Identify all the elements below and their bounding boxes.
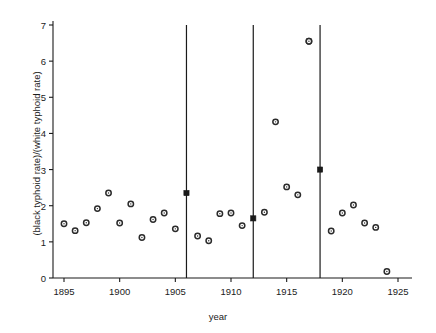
x-tick-label-1915: 1915 xyxy=(276,286,297,297)
chart-figure: 1895190019051910191519201925 01234567 (b… xyxy=(0,0,436,333)
data-point-1921-center xyxy=(353,204,354,205)
axis-layer xyxy=(49,21,412,282)
x-tick-label-1925: 1925 xyxy=(387,286,408,297)
data-point-1916-center xyxy=(297,194,298,195)
data-point-1924-center xyxy=(386,271,387,272)
x-tick-label-1900: 1900 xyxy=(109,286,130,297)
data-point-1909-center xyxy=(219,213,220,214)
data-point-1897-center xyxy=(86,222,87,223)
marker-point-1906 xyxy=(184,190,189,195)
data-point-1915-center xyxy=(286,186,287,187)
data-point-1904-center xyxy=(164,212,165,213)
data-point-1898-center xyxy=(97,208,98,209)
x-axis-label: year xyxy=(0,311,436,322)
data-point-1914-center xyxy=(275,121,276,122)
data-point-1919-center xyxy=(331,230,332,231)
x-tick-label-1920: 1920 xyxy=(332,286,353,297)
data-point-1896-center xyxy=(74,230,75,231)
data-point-1907-center xyxy=(197,235,198,236)
data-point-1902-center xyxy=(141,237,142,238)
data-point-1905-center xyxy=(175,228,176,229)
data-point-1895-center xyxy=(63,223,64,224)
data-point-1901-center xyxy=(130,203,131,204)
data-point-1920-center xyxy=(342,212,343,213)
y-axis-label: (black typhoid rate)/(white typhoid rate… xyxy=(31,44,42,264)
data-point-1903-center xyxy=(152,219,153,220)
data-point-1908-center xyxy=(208,240,209,241)
x-tick-label-1895: 1895 xyxy=(53,286,74,297)
data-point-1910-center xyxy=(230,212,231,213)
data-point-1917-center xyxy=(308,41,309,42)
marker-point-1918 xyxy=(317,167,322,172)
data-point-1923-center xyxy=(375,227,376,228)
data-point-1911-center xyxy=(241,225,242,226)
x-tick-label-1905: 1905 xyxy=(165,286,186,297)
x-tick-label-1910: 1910 xyxy=(220,286,241,297)
y-tick-label-0: 0 xyxy=(28,273,46,284)
data-point-1922-center xyxy=(364,222,365,223)
data-point-1913-center xyxy=(264,212,265,213)
y-tick-label-7: 7 xyxy=(28,20,46,31)
data-point-1899-center xyxy=(108,192,109,193)
data-point-1900-center xyxy=(119,222,120,223)
scatter-plot-canvas xyxy=(0,0,436,333)
marker-point-1912 xyxy=(251,216,256,221)
data-point-layer xyxy=(61,39,389,275)
